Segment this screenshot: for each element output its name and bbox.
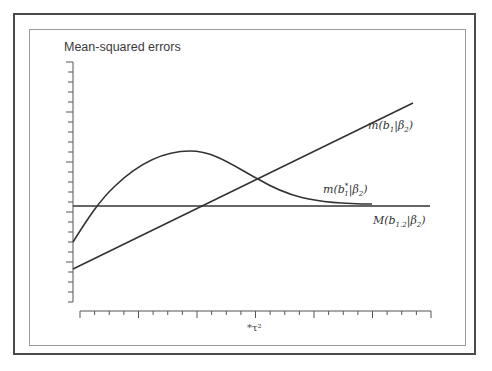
x-axis-label: *τ² [247, 322, 262, 333]
plot-area [0, 0, 492, 371]
label-series-hump: m(b*1|β2) [323, 182, 368, 198]
label-series-straight: m(b1|β2) [368, 119, 413, 134]
label-series-constant: M(b1.2|β2) [373, 214, 426, 229]
x-axis [80, 311, 431, 318]
y-axis [66, 62, 73, 302]
